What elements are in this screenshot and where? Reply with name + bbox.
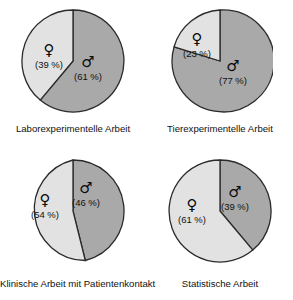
pie-chart-panel-1: ♂ (77 %) ♀ (23 %) Tierexperimentelle Arb… bbox=[147, 0, 293, 150]
pie-1-caption: Tierexperimentelle Arbeit bbox=[147, 123, 293, 134]
pie-chart-panel-0: ♂ (61 %) ♀ (39 %) Laborexperimentelle Ar… bbox=[0, 0, 146, 150]
pie-1-svg bbox=[167, 8, 273, 114]
pie-2-caption: Klinische Arbeit mit Patientenkontakt bbox=[0, 278, 146, 289]
pie-0-caption: Laborexperimentelle Arbeit bbox=[0, 123, 146, 134]
pie-3-caption: Statistische Arbeit bbox=[147, 278, 293, 289]
pie-0-svg bbox=[20, 8, 126, 114]
pie-3-svg bbox=[167, 158, 273, 264]
pie-chart-panel-3: ♂ (39 %) ♀ (61 %) Statistische Arbeit bbox=[147, 150, 293, 300]
pie-chart-figure: ♂ (61 %) ♀ (39 %) Laborexperimentelle Ar… bbox=[0, 0, 293, 300]
pie-2-svg bbox=[20, 158, 126, 264]
pie-chart-panel-2: ♂ (46 %) ♀ (54 %) Klinische Arbeit mit P… bbox=[0, 150, 146, 300]
